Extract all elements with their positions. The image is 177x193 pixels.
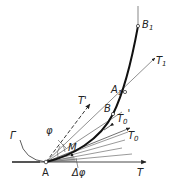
label-m: M [68,142,77,153]
point-m [71,154,74,157]
point-b1 [136,24,139,27]
label-gamma: Γ [10,130,17,141]
label-t: T [137,167,144,178]
point-a1 [123,90,126,93]
label-t0: T0 [128,130,139,143]
secant-t1-line [46,58,155,162]
label-delta-phi: Δφ [71,167,86,178]
curve-tangent-diagram: Γ φ T' M A Δφ T B T0' T0 A1 T1 B1 [0,0,177,193]
label-phi: φ [46,125,53,136]
label-t-prime: T' [78,95,87,106]
curve-gamma-arc [20,140,46,162]
label-b1: B1 [142,19,153,32]
label-t0-prime: T0' [117,108,130,126]
point-a [44,160,48,164]
label-t1: T1 [156,55,167,68]
point-b [111,112,114,115]
label-a: A [42,167,49,178]
label-b: B [104,103,111,114]
